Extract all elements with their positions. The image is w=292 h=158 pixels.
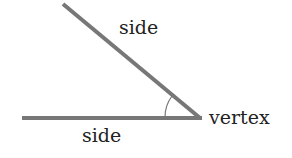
vertex-label: vertex bbox=[209, 108, 270, 127]
angle-diagram: side side vertex bbox=[0, 0, 292, 158]
angle-arc bbox=[165, 96, 172, 118]
upper-side-label: side bbox=[119, 18, 158, 37]
lower-side-label: side bbox=[82, 126, 121, 145]
